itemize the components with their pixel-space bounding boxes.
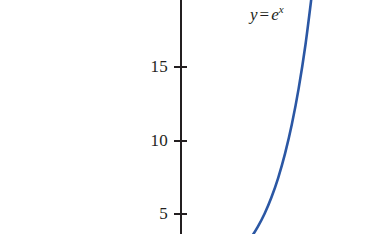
exponential-curve-path: [240, 0, 312, 234]
curve-equation-label: y=ex: [250, 5, 284, 24]
equation-variable-y: y: [250, 5, 258, 24]
exponential-function-figure: 20 15 10 5 y=ex: [0, 0, 392, 234]
equation-equals-sign: =: [258, 5, 272, 24]
exponential-curve-layer: [0, 0, 392, 234]
equation-base-e: e: [271, 5, 279, 24]
equation-exponent-x: x: [279, 3, 284, 15]
